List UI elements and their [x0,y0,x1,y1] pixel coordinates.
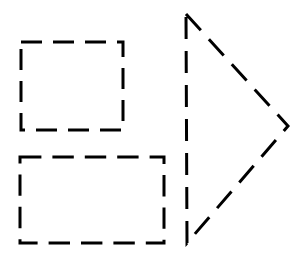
shapes-svg [0,0,295,260]
figure-canvas [0,0,295,260]
